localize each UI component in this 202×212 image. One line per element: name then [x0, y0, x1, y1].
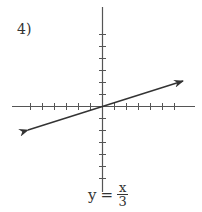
- equation-lhs: y: [88, 186, 96, 204]
- fraction-denominator: 3: [118, 196, 126, 207]
- fraction-numerator: x: [119, 182, 126, 193]
- equation-equals: =: [100, 186, 113, 204]
- function-line: [28, 81, 183, 130]
- equation-fraction: x 3: [117, 182, 128, 207]
- coordinate-plane: [0, 0, 202, 212]
- equation-label: y = x 3: [88, 182, 128, 207]
